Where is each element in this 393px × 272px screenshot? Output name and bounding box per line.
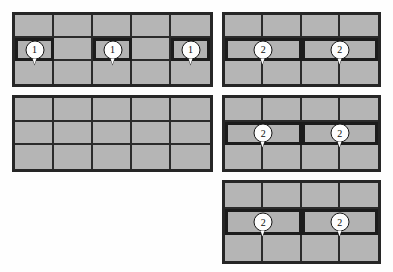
grid-cell: [263, 183, 301, 209]
marker-balloon: 2: [330, 40, 349, 59]
grid-cell: [340, 235, 378, 261]
panel-middle-right-grid: 2 2: [222, 95, 381, 172]
marker-balloon: 2: [330, 213, 349, 232]
grid-cell-marked: 1: [15, 38, 54, 61]
marker-balloon: 2: [254, 40, 273, 59]
grid-cell: [302, 15, 340, 38]
grid-cell-marked: 2: [225, 38, 302, 61]
grid-cell: [263, 15, 301, 38]
grid-cell: [302, 98, 340, 122]
grid-cell: [132, 38, 171, 61]
grid-cell: [54, 145, 93, 169]
grid-cell: [225, 145, 263, 169]
grid-cell: [15, 15, 54, 38]
grid-cell: [171, 145, 210, 169]
marker-tail-icon: [337, 231, 341, 237]
diagram-canvas: 1 1 1: [0, 0, 393, 272]
grid-cell: [15, 98, 54, 122]
marker-balloon: 1: [181, 40, 200, 59]
grid-cell: [340, 183, 378, 209]
grid-cell: [132, 15, 171, 38]
grid-cell: [132, 98, 171, 122]
marker-balloon: 1: [103, 40, 122, 59]
marker-tail-icon: [337, 58, 341, 64]
grid-cell: [132, 61, 171, 84]
marker-tail-icon: [337, 142, 341, 148]
marker-balloon: 1: [25, 40, 44, 59]
grid-cell: [171, 98, 210, 122]
grid-cell-marked: 2: [225, 122, 302, 146]
panel-top-left-grid: 1 1 1: [12, 12, 213, 87]
marker-tail-icon: [188, 58, 192, 64]
marker-tail-icon: [110, 58, 114, 64]
marker-tail-icon: [261, 142, 265, 148]
grid-cell: [93, 98, 132, 122]
grid-cell: [302, 61, 340, 84]
grid-cell: [225, 183, 263, 209]
grid-cell: [171, 122, 210, 146]
marker-tail-icon: [261, 231, 265, 237]
grid-cell: [225, 61, 263, 84]
grid-cell: [93, 145, 132, 169]
grid-cell: [263, 145, 301, 169]
grid-cell: [340, 98, 378, 122]
grid-cell: [263, 98, 301, 122]
grid-cell-marked: 2: [302, 38, 379, 61]
grid-cell: [171, 61, 210, 84]
panel-top-right-grid: 2 2: [222, 12, 381, 87]
panel-middle-left-grid: [12, 95, 213, 172]
grid-cell: [302, 145, 340, 169]
grid-cell: [302, 183, 340, 209]
marker-balloon: 2: [254, 124, 273, 143]
grid-cell-marked: 2: [302, 122, 379, 146]
grid-cell-marked: 2: [225, 209, 302, 235]
grid-cell: [132, 122, 171, 146]
grid-cell: [93, 61, 132, 84]
grid-cell: [15, 145, 54, 169]
grid-cell: [263, 235, 301, 261]
grid-cell: [302, 235, 340, 261]
grid-cell: [225, 15, 263, 38]
grid-cell: [93, 15, 132, 38]
grid-cell: [225, 235, 263, 261]
grid-cell: [171, 15, 210, 38]
grid-cell: [132, 145, 171, 169]
grid-cell: [225, 98, 263, 122]
panel-bottom-right-grid: 2 2: [222, 180, 381, 264]
marker-balloon: 2: [254, 213, 273, 232]
grid-cell: [54, 38, 93, 61]
grid-cell: [15, 61, 54, 84]
grid-cell-marked: 1: [171, 38, 210, 61]
grid-cell: [54, 122, 93, 146]
marker-tail-icon: [261, 58, 265, 64]
grid-cell: [54, 61, 93, 84]
grid-cell-marked: 2: [302, 209, 379, 235]
grid-cell: [263, 61, 301, 84]
grid-cell: [340, 145, 378, 169]
grid-cell: [54, 15, 93, 38]
grid-cell: [54, 98, 93, 122]
grid-cell: [93, 122, 132, 146]
grid-cell: [340, 15, 378, 38]
grid-cell: [340, 61, 378, 84]
grid-cell-marked: 1: [93, 38, 132, 61]
grid-cell: [15, 122, 54, 146]
marker-balloon: 2: [330, 124, 349, 143]
marker-tail-icon: [32, 58, 36, 64]
